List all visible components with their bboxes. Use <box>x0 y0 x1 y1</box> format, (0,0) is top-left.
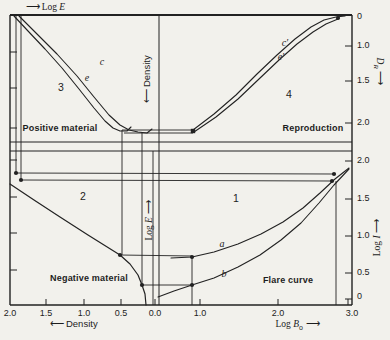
right-axis-tick-label: 2.0 <box>357 156 370 165</box>
curve-label-b: b <box>222 269 227 279</box>
construction-square-dot <box>191 129 195 133</box>
right-axis-tick-label: 0.5 <box>357 268 370 277</box>
curve-negative <box>10 184 146 305</box>
bottom-axis-tick-label: 1.0 <box>194 309 207 318</box>
right-axis-tick-label: 1.5 <box>357 194 370 203</box>
curve-reproduction-e-prime <box>194 19 338 132</box>
right-axis-tick-label: 0 <box>357 12 362 21</box>
curve-reproduction-c-prime <box>193 16 345 130</box>
construction-dot <box>336 16 340 20</box>
curve-label-e: e <box>85 73 89 83</box>
curve-label-a: a <box>220 239 225 249</box>
top-axis-title: ⟶ Log E <box>26 2 65 13</box>
down-arrow-icon: ⟵ <box>141 90 152 103</box>
construction-line <box>120 255 192 256</box>
curve-positive-e <box>14 16 131 131</box>
bottom-axis-tick-label: 0.0 <box>149 309 162 318</box>
bottom-density-axis-title: ⟵ Density <box>50 319 97 329</box>
quadrant-2-number: 2 <box>80 191 86 202</box>
center-log-e-axis-title: Log E ⟶ <box>144 201 155 240</box>
bottom-axis-tick-label: 0.5 <box>115 309 128 318</box>
construction-dot <box>190 283 194 287</box>
up-arrow-icon: ⟶ <box>371 220 382 233</box>
construction-dot <box>330 179 334 183</box>
density-reproduction-axis-title: DR ⟶ <box>375 58 386 85</box>
construction-dot <box>118 253 122 257</box>
left-arrow-icon: ⟵ <box>50 318 63 329</box>
right-arrow-icon: ⟶ <box>306 318 319 329</box>
bottom-axis-tick-label: 2.0 <box>4 309 17 318</box>
construction-dot <box>140 283 144 287</box>
construction-dot <box>332 172 336 176</box>
construction-line <box>16 173 334 174</box>
down-arrow-icon: ⟶ <box>375 71 386 84</box>
curve-label-c-prime: c′ <box>282 38 289 48</box>
right-arrow-icon: ⟶ <box>26 1 39 12</box>
bottom-axis-tick-label: 2.0 <box>272 309 285 318</box>
right-axis-tick-label: 1.0 <box>357 231 370 240</box>
quadrant-1-number: 1 <box>233 193 239 204</box>
region-flare-curve: Flare curve <box>263 276 313 285</box>
quadrant-4-number: 4 <box>286 89 292 100</box>
curve-label-e-prime: e′ <box>278 52 285 62</box>
right-axis-tick-label: 2.0 <box>357 118 370 127</box>
region-negative-material: Negative material <box>50 274 128 283</box>
figure: ⟶ Log E 3 4 2 1 Positive material Reprod… <box>0 0 390 340</box>
bottom-axis-tick-label: 1.5 <box>40 309 53 318</box>
region-reproduction: Reproduction <box>283 124 344 133</box>
construction-dot <box>190 255 194 259</box>
diagram-linework <box>0 0 390 340</box>
quadrant-3-number: 3 <box>58 82 64 93</box>
curve-label-c: c <box>100 57 104 67</box>
bottom-axis-tick-label: 1.0 <box>78 309 91 318</box>
bottom-log-b-axis-title: Log Bo ⟶ <box>275 319 318 330</box>
curve-flare-b <box>158 169 349 297</box>
construction-dot <box>14 171 18 175</box>
center-density-axis-title: ⟵ Density <box>142 55 152 102</box>
curve-flare-a <box>171 168 349 258</box>
right-axis-tick-label: 1.5 <box>357 76 370 85</box>
up-arrow-icon: ⟶ <box>143 201 154 214</box>
right-axis-tick-label: 1.0 <box>357 41 370 50</box>
log-i-axis-title: Log I ⟶ <box>372 220 383 257</box>
region-positive-material: Positive material <box>23 124 98 133</box>
construction-dot <box>19 178 23 182</box>
construction-line <box>21 180 332 181</box>
right-axis-tick-label: 0 <box>357 292 362 301</box>
bottom-axis-tick-label: 3.0 <box>346 309 359 318</box>
